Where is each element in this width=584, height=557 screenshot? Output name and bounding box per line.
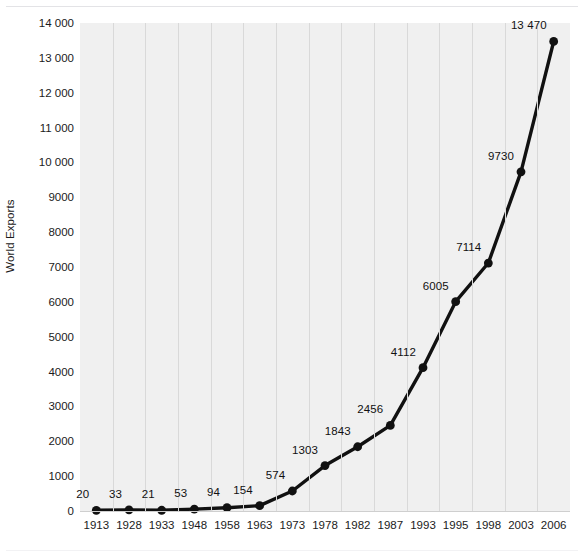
y-tick-label: 8000 (2, 226, 74, 238)
x-tick-label: 1998 (476, 519, 502, 531)
y-tick-label: 0 (2, 505, 74, 517)
data-point-label: 9730 (488, 150, 514, 162)
gridline-vertical (439, 23, 440, 511)
plot-area: 2033215394154574130318432456411260057114… (80, 23, 570, 511)
data-point-marker (451, 297, 460, 306)
data-point-label: 94 (207, 486, 220, 498)
data-point-label: 154 (233, 484, 253, 496)
data-point-marker (321, 461, 330, 470)
x-tick-label: 1913 (84, 519, 110, 531)
x-axis-tick-labels: 1913192819331948195819631973197819821987… (80, 519, 570, 541)
x-tick-label: 1995 (443, 519, 469, 531)
data-point-marker (517, 167, 526, 176)
gridline-vertical (276, 23, 277, 511)
x-axis-line (80, 511, 570, 512)
data-point-label: 6005 (423, 280, 449, 292)
x-tick-label: 1993 (410, 519, 436, 531)
bottom-divider (6, 550, 578, 551)
gridline-vertical (505, 23, 506, 511)
data-point-label: 4112 (391, 346, 416, 358)
data-point-label: 574 (266, 469, 286, 481)
data-point-marker (125, 505, 134, 514)
y-tick-label: 1000 (2, 470, 74, 482)
y-tick-label: 3000 (2, 400, 74, 412)
gridline-vertical (211, 23, 212, 511)
data-point-marker (419, 363, 428, 372)
gridline-vertical (472, 23, 473, 511)
gridline-vertical (113, 23, 114, 511)
data-point-label: 33 (109, 488, 122, 500)
x-tick-label: 1982 (345, 519, 371, 531)
y-tick-label: 4000 (2, 366, 74, 378)
x-tick-label: 1963 (247, 519, 273, 531)
y-tick-label: 5000 (2, 331, 74, 343)
x-tick-label: 1928 (116, 519, 142, 531)
x-tick-label: 1933 (149, 519, 175, 531)
data-point-label: 1843 (325, 425, 351, 437)
y-tick-label: 10 000 (2, 156, 74, 168)
gridline-vertical (145, 23, 146, 511)
y-tick-label: 2000 (2, 435, 74, 447)
data-point-label: 7114 (456, 241, 481, 253)
y-tick-label: 9000 (2, 191, 74, 203)
data-point-marker (386, 421, 395, 430)
gridline-vertical (309, 23, 310, 511)
x-tick-label: 1973 (280, 519, 306, 531)
series-line-world-exports (80, 23, 570, 511)
y-axis-tick-labels: 010002000300040005000600070008000900010 … (0, 23, 74, 511)
y-tick-label: 14 000 (2, 17, 74, 29)
data-point-label: 21 (142, 488, 155, 500)
data-point-label: 13 470 (511, 19, 547, 31)
x-tick-label: 2006 (541, 519, 567, 531)
gridline-vertical (374, 23, 375, 511)
data-point-marker (255, 501, 264, 510)
gridline-vertical (407, 23, 408, 511)
data-point-marker (353, 442, 362, 451)
y-tick-label: 6000 (2, 296, 74, 308)
data-point-label: 53 (174, 487, 187, 499)
data-point-marker (484, 259, 493, 268)
series-line (96, 41, 553, 510)
gridline-vertical (243, 23, 244, 511)
x-tick-label: 1948 (182, 519, 208, 531)
data-point-label: 2456 (357, 403, 383, 415)
gridline-vertical (178, 23, 179, 511)
data-point-marker (549, 37, 558, 46)
data-point-marker (190, 505, 199, 514)
gridline-vertical (537, 23, 538, 511)
chart-figure: World Exports 01000200030004000500060007… (0, 0, 584, 557)
x-tick-label: 1978 (312, 519, 338, 531)
data-point-label: 1303 (292, 444, 318, 456)
data-point-label: 20 (76, 488, 89, 500)
x-tick-label: 1987 (378, 519, 404, 531)
y-tick-label: 12 000 (2, 87, 74, 99)
y-tick-label: 7000 (2, 261, 74, 273)
x-tick-label: 1958 (214, 519, 240, 531)
y-tick-label: 13 000 (2, 52, 74, 64)
y-tick-label: 11 000 (2, 122, 74, 134)
top-divider (6, 6, 578, 7)
data-point-marker (288, 487, 297, 496)
gridline-vertical (341, 23, 342, 511)
x-tick-label: 2003 (508, 519, 534, 531)
